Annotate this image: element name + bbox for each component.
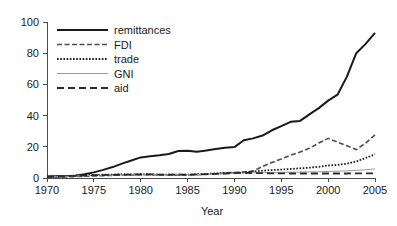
chart-canvas: 020406080100 197019751980198519901995200…	[0, 0, 397, 226]
y-tick-label: 100	[21, 16, 39, 28]
y-tick-label: 0	[33, 172, 39, 184]
x-tick-label: 1970	[35, 184, 59, 196]
legend-label-fdi: FDI	[114, 39, 132, 51]
legend-label-remittances: remittances	[114, 24, 171, 36]
x-tick-label: 1975	[82, 184, 106, 196]
y-axis: 020406080100	[21, 16, 47, 184]
y-tick-label: 60	[27, 78, 39, 90]
y-tick-label: 80	[27, 47, 39, 59]
legend-label-aid: aid	[114, 82, 129, 94]
line-chart: 020406080100 197019751980198519901995200…	[0, 0, 397, 226]
legend-label-gni: GNI	[114, 68, 134, 80]
x-tick-label: 2005	[363, 184, 387, 196]
x-tick-label: 1995	[269, 184, 293, 196]
x-axis-title: Year	[201, 205, 224, 217]
y-tick-label: 40	[27, 110, 39, 122]
x-tick-label: 1980	[128, 184, 152, 196]
chart-legend: remittancesFDItradeGNIaid	[57, 24, 171, 94]
series-line-remittances	[47, 33, 375, 177]
x-tick-label: 1985	[175, 184, 199, 196]
x-tick-label: 1990	[222, 184, 246, 196]
y-tick-label: 20	[27, 141, 39, 153]
legend-label-trade: trade	[114, 53, 139, 65]
x-tick-label: 2000	[316, 184, 340, 196]
x-axis: 19701975198019851990199520002005	[35, 178, 387, 196]
series-layer	[47, 33, 375, 177]
